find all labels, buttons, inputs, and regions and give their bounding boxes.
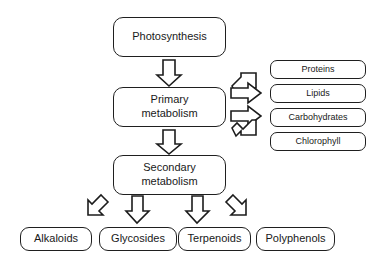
node-primary-metabolism-label: Primary metabolism	[141, 93, 197, 121]
metabolism-flowchart: Photosynthesis Primary metabolism Second…	[0, 0, 379, 266]
node-proteins-label: Proteins	[301, 64, 334, 75]
arrow-primary-to-carbohydrates-icon	[231, 106, 261, 126]
node-alkaloids: Alkaloids	[20, 227, 92, 251]
node-alkaloids-label: Alkaloids	[34, 232, 78, 246]
node-glycosides-label: Glycosides	[111, 232, 165, 246]
node-chlorophyll: Chlorophyll	[270, 132, 366, 151]
node-proteins: Proteins	[270, 60, 366, 79]
node-secondary-metabolism-label: Secondary metabolism	[141, 161, 197, 189]
arrow-secondary-to-alkaloids-icon	[88, 195, 108, 215]
node-glycosides: Glycosides	[99, 227, 177, 251]
node-photosynthesis: Photosynthesis	[113, 17, 226, 57]
node-photosynthesis-label: Photosynthesis	[132, 30, 207, 44]
node-polyphenols-label: Polyphenols	[266, 232, 326, 246]
node-terpenoids: Terpenoids	[178, 227, 251, 251]
arrow-photosynthesis-to-primary-icon	[157, 60, 181, 86]
arrow-secondary-to-terpenoids-icon	[186, 196, 209, 223]
node-primary-metabolism: Primary metabolism	[113, 87, 226, 127]
node-carbohydrates: Carbohydrates	[270, 108, 366, 127]
node-chlorophyll-label: Chlorophyll	[295, 136, 340, 147]
arrow-secondary-to-glycosides-icon	[126, 196, 149, 223]
arrow-primary-to-lipids-icon	[231, 83, 261, 103]
arrow-primary-to-proteins-icon	[232, 73, 256, 97]
node-carbohydrates-label: Carbohydrates	[288, 112, 347, 123]
node-lipids: Lipids	[270, 84, 366, 103]
node-lipids-label: Lipids	[306, 88, 330, 99]
node-polyphenols: Polyphenols	[256, 227, 335, 251]
node-secondary-metabolism: Secondary metabolism	[113, 155, 226, 195]
arrow-primary-to-chlorophyll-icon	[232, 120, 256, 136]
arrow-primary-to-secondary-icon	[157, 130, 181, 154]
node-terpenoids-label: Terpenoids	[188, 232, 242, 246]
arrow-secondary-to-polyphenols-icon	[226, 195, 246, 215]
